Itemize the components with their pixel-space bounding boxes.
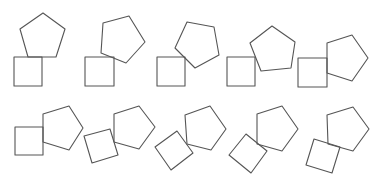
- square-shape: [229, 134, 267, 173]
- pentagon-shape: [250, 26, 295, 71]
- panel-9: [229, 106, 298, 173]
- pentagon-shape: [257, 106, 298, 151]
- square-shape: [298, 58, 327, 87]
- panel-8: [155, 106, 226, 170]
- square-shape: [15, 127, 43, 155]
- square-pentagon-rotation-diagram: [0, 0, 382, 185]
- panel-10: [306, 107, 369, 173]
- pentagon-shape: [327, 35, 368, 81]
- panel-7: [84, 106, 155, 163]
- square-shape: [306, 139, 340, 173]
- panel-3: [157, 22, 219, 86]
- pentagon-shape: [114, 106, 155, 149]
- pentagon-shape: [175, 22, 219, 68]
- square-shape: [84, 129, 118, 163]
- pentagon-shape: [43, 106, 83, 150]
- panel-5: [298, 35, 368, 87]
- panel-4: [227, 26, 295, 86]
- square-shape: [155, 131, 193, 170]
- square-shape: [227, 57, 255, 86]
- square-shape: [157, 57, 185, 86]
- square-shape: [85, 57, 114, 86]
- square-shape: [14, 57, 42, 86]
- panel-2: [85, 16, 145, 86]
- pentagon-shape: [101, 16, 145, 63]
- panel-1: [14, 13, 65, 86]
- pentagon-shape: [20, 13, 65, 57]
- pentagon-shape: [185, 106, 226, 150]
- panel-6: [15, 106, 83, 155]
